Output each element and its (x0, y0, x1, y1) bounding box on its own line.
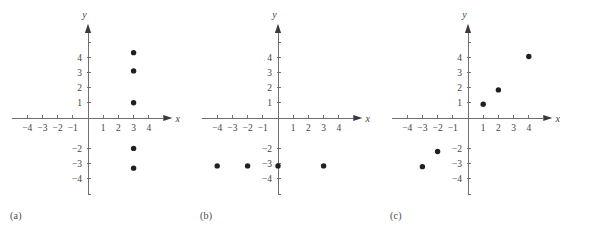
y-axis-tick-label: −3 (72, 159, 82, 169)
x-axis-tick-label: 2 (496, 123, 501, 133)
y-axis-tick-label: 2 (457, 83, 462, 93)
x-axis-tick-label: −4 (212, 123, 222, 133)
y-axis-tick-label: 2 (267, 83, 272, 93)
y-axis-arrow-icon (465, 24, 471, 33)
y-axis-tick-label: −2 (262, 144, 272, 154)
y-axis-tick-label: −4 (262, 174, 272, 184)
y-axis-tick-label: 3 (457, 68, 462, 78)
data-point (131, 165, 136, 170)
y-axis-tick-label: −3 (452, 159, 462, 169)
y-axis-tick-label: 2 (77, 83, 82, 93)
x-axis-tick-label: 3 (131, 123, 136, 133)
panel-b: xy−4−3−2−112344321−2−3−4 (b) (190, 0, 386, 229)
x-axis-tick-label: −1 (448, 123, 458, 133)
x-axis-tick-label: −2 (243, 123, 253, 133)
x-axis-tick-label: −3 (37, 123, 47, 133)
data-point (131, 50, 136, 55)
data-point (131, 100, 136, 105)
y-axis-tick-label: 3 (267, 68, 272, 78)
panel-c: xy−4−3−2−112344321−2−3−4 (c) (380, 0, 576, 229)
data-point (131, 146, 136, 151)
y-axis-tick-label: 1 (77, 98, 82, 108)
data-point (215, 163, 220, 168)
panel-b-caption: (b) (200, 210, 212, 221)
plot-b: xy−4−3−2−112344321−2−3−4 (190, 0, 386, 200)
x-axis-label: x (364, 113, 370, 124)
data-point (496, 87, 501, 92)
y-axis-label: y (81, 9, 87, 20)
x-axis-tick-label: 1 (101, 123, 106, 133)
y-axis-tick-label: 4 (267, 53, 272, 63)
figure-three-coordinate-plane-scatter-plots: xy−4−3−2−112344321−2−3−4 (a) xy−4−3−2−11… (0, 0, 589, 229)
y-axis-tick-label: 1 (457, 98, 462, 108)
y-axis-tick-label: −2 (72, 144, 82, 154)
x-axis-tick-label: 1 (481, 123, 486, 133)
x-axis-tick-label: −3 (417, 123, 427, 133)
data-point (275, 163, 280, 168)
x-axis-tick-label: 4 (526, 123, 531, 133)
x-axis-arrow-icon (163, 115, 172, 121)
plot-a: xy−4−3−2−112344321−2−3−4 (0, 0, 196, 200)
y-axis-arrow-icon (275, 24, 281, 33)
y-axis-tick-label: 4 (77, 53, 82, 63)
y-axis-tick-label: 1 (267, 98, 272, 108)
panel-c-caption: (c) (390, 210, 402, 221)
x-axis-tick-label: 3 (321, 123, 326, 133)
x-axis-label: x (554, 113, 560, 124)
x-axis-arrow-icon (543, 115, 552, 121)
y-axis-label: y (461, 9, 467, 20)
x-axis-tick-label: −4 (402, 123, 412, 133)
x-axis-arrow-icon (353, 115, 362, 121)
data-point (245, 163, 250, 168)
x-axis-tick-label: 4 (336, 123, 341, 133)
y-axis-label: y (271, 9, 277, 20)
x-axis-tick-label: 1 (291, 123, 296, 133)
x-axis-tick-label: −1 (258, 123, 268, 133)
data-point (481, 102, 486, 107)
y-axis-arrow-icon (85, 24, 91, 33)
x-axis-tick-label: 4 (146, 123, 151, 133)
data-point (526, 54, 531, 59)
data-point (420, 164, 425, 169)
x-axis-tick-label: 3 (511, 123, 516, 133)
panel-a-caption: (a) (10, 210, 22, 221)
panel-a: xy−4−3−2−112344321−2−3−4 (a) (0, 0, 196, 229)
y-axis-tick-label: 4 (457, 53, 462, 63)
y-axis-tick-label: −2 (452, 144, 462, 154)
y-axis-tick-label: 3 (77, 68, 82, 78)
x-axis-tick-label: −3 (227, 123, 237, 133)
data-point (321, 163, 326, 168)
x-axis-tick-label: −2 (433, 123, 443, 133)
x-axis-label: x (174, 113, 180, 124)
data-point (131, 68, 136, 73)
y-axis-tick-label: −4 (72, 174, 82, 184)
y-axis-tick-label: −3 (262, 159, 272, 169)
data-point (435, 149, 440, 154)
x-axis-tick-label: −2 (53, 123, 63, 133)
plot-c: xy−4−3−2−112344321−2−3−4 (380, 0, 576, 200)
y-axis-tick-label: −4 (452, 174, 462, 184)
x-axis-tick-label: 2 (116, 123, 121, 133)
x-axis-tick-label: −1 (68, 123, 78, 133)
x-axis-tick-label: 2 (306, 123, 311, 133)
x-axis-tick-label: −4 (22, 123, 32, 133)
